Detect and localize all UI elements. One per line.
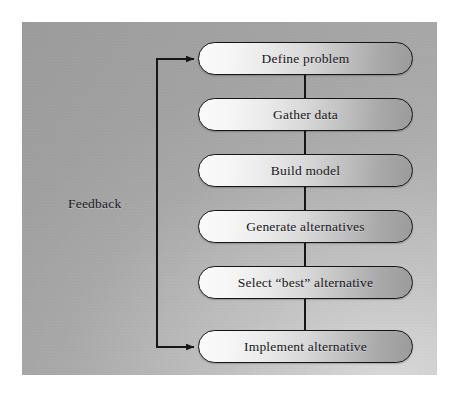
node-implement-alternative[interactable]: Implement alternative (198, 330, 413, 363)
feedback-label: Feedback (68, 196, 121, 212)
node-label-implement-alternative: Implement alternative (244, 339, 367, 355)
node-label-gather-data: Gather data (273, 107, 338, 123)
node-generate-alternatives[interactable]: Generate alternatives (198, 210, 413, 243)
node-define-problem[interactable]: Define problem (198, 42, 413, 75)
node-select-best-alternative[interactable]: Select “best” alternative (198, 266, 413, 299)
diagram-canvas: Feedback Define problem Gather data Buil… (0, 0, 461, 406)
node-gather-data[interactable]: Gather data (198, 98, 413, 131)
node-label-build-model: Build model (271, 163, 340, 179)
node-build-model[interactable]: Build model (198, 154, 413, 187)
node-label-select-best-alternative: Select “best” alternative (238, 275, 373, 291)
node-label-generate-alternatives: Generate alternatives (246, 219, 365, 235)
node-label-define-problem: Define problem (262, 51, 350, 67)
